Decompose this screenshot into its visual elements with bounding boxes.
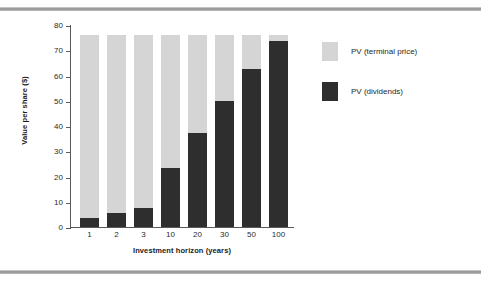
bar-column[interactable] [80, 25, 99, 227]
legend-label: PV (terminal price) [351, 47, 417, 56]
bar-segment-dividends[interactable] [215, 101, 234, 227]
bar-segment-dividends[interactable] [188, 133, 207, 227]
x-axis-tick-label: 100 [269, 230, 288, 239]
chart-legend: PV (terminal price)PV (dividends) [322, 42, 472, 122]
y-axis-tick-label: 0 [43, 223, 63, 232]
y-axis-tick-label: 30 [43, 147, 63, 156]
bar-segment-dividends[interactable] [161, 168, 180, 227]
legend-label: PV (dividends) [351, 87, 403, 96]
bar-segment-terminal-price[interactable] [188, 35, 207, 132]
legend-item[interactable]: PV (dividends) [322, 82, 472, 101]
x-axis-tick-label: 10 [161, 230, 180, 239]
stacked-bar-chart: Value per share ($) 01020304050607080 12… [0, 14, 481, 266]
bar-segment-terminal-price[interactable] [215, 35, 234, 101]
bar-column[interactable] [188, 25, 207, 227]
x-axis-tick-labels: 12310203050100 [71, 230, 293, 239]
y-axis-tick-label: 40 [43, 122, 63, 131]
y-axis-tick-label: 50 [43, 97, 63, 106]
page-rule-top [0, 7, 481, 11]
bar-segment-dividends[interactable] [269, 41, 288, 227]
page-rule-bottom [0, 270, 481, 274]
bar-segment-terminal-price[interactable] [107, 35, 126, 213]
bar-segment-dividends[interactable] [80, 218, 99, 227]
bar-segment-terminal-price[interactable] [80, 35, 99, 218]
bar-column[interactable] [161, 25, 180, 227]
x-axis-line [70, 227, 294, 228]
bar-column[interactable] [269, 25, 288, 227]
x-axis-tick-label: 2 [107, 230, 126, 239]
y-axis-tick-label: 20 [43, 173, 63, 182]
y-axis-tick-label: 10 [43, 198, 63, 207]
bar-column[interactable] [134, 25, 153, 227]
bar-segment-terminal-price[interactable] [161, 35, 180, 168]
bar-segment-dividends[interactable] [134, 208, 153, 227]
x-axis-tick-label: 3 [134, 230, 153, 239]
y-axis-tick-label: 70 [43, 46, 63, 55]
legend-swatch [322, 42, 338, 61]
bar-segment-dividends[interactable] [107, 213, 126, 227]
bar-segment-terminal-price[interactable] [134, 35, 153, 208]
legend-swatch [322, 82, 338, 101]
bar-segment-terminal-price[interactable] [242, 35, 261, 69]
plot-area: 01020304050607080 12310203050100 [70, 25, 292, 228]
x-axis-tick-label: 1 [80, 230, 99, 239]
x-axis-tick-label: 20 [188, 230, 207, 239]
y-axis-tick-label: 80 [43, 21, 63, 30]
y-axis-tick [66, 228, 71, 229]
y-axis-tick-label: 60 [43, 72, 63, 81]
x-axis-tick-label: 50 [242, 230, 261, 239]
bar-column[interactable] [107, 25, 126, 227]
bar-group [71, 25, 293, 227]
legend-item[interactable]: PV (terminal price) [322, 42, 472, 61]
y-axis-title: Value per share ($) [20, 51, 29, 171]
x-axis-title: Investment horizon (years) [70, 246, 294, 255]
x-axis-tick-label: 30 [215, 230, 234, 239]
bar-segment-dividends[interactable] [242, 69, 261, 227]
bar-column[interactable] [215, 25, 234, 227]
bar-column[interactable] [242, 25, 261, 227]
